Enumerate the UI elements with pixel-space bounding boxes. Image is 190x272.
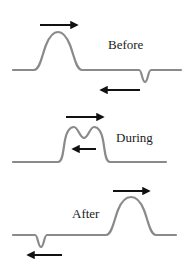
panel-during: During	[13, 117, 166, 162]
panel-before: Before	[13, 25, 181, 90]
wave-before	[13, 32, 181, 82]
label-after: After	[72, 206, 100, 221]
label-during: During	[116, 130, 153, 145]
superposition-diagram: Before During After	[0, 0, 190, 272]
wave-after	[13, 197, 176, 247]
label-before: Before	[108, 37, 144, 52]
panel-after: After	[13, 191, 176, 255]
